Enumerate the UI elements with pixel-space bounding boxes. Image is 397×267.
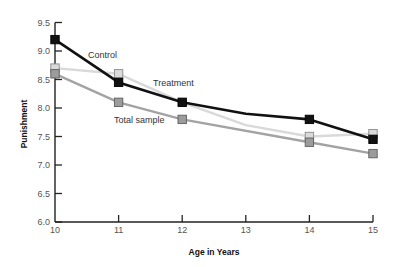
x-tick-label: 12 xyxy=(177,225,187,235)
y-tick-label: 9.0 xyxy=(37,46,50,56)
series-label: Control xyxy=(88,50,117,60)
data-point-marker xyxy=(114,78,122,86)
series-label: Treatment xyxy=(153,78,194,88)
data-point-marker xyxy=(51,70,59,78)
data-point-marker xyxy=(178,115,186,123)
x-tick-label: 10 xyxy=(50,225,60,235)
data-point-marker xyxy=(369,149,377,157)
y-tick-label: 7.0 xyxy=(37,160,50,170)
y-tick-label: 6.0 xyxy=(37,217,50,227)
data-point-marker xyxy=(114,98,122,106)
y-axis-title: Punishment xyxy=(19,100,29,149)
x-tick-label: 11 xyxy=(114,225,123,235)
y-tick-label: 9.5 xyxy=(37,18,50,28)
data-point-marker xyxy=(305,138,313,146)
y-tick-label: 8.0 xyxy=(37,103,50,113)
data-point-marker xyxy=(51,35,59,43)
line-chart: 6.06.57.07.58.08.59.09.5 101112131415 Co… xyxy=(0,0,397,267)
series-labels: ControlTreatmentTotal sample xyxy=(88,50,194,125)
y-axis: 6.06.57.07.58.08.59.09.5 xyxy=(37,18,62,228)
y-tick-label: 6.5 xyxy=(37,189,50,199)
data-point-marker xyxy=(305,115,313,123)
x-tick-label: 13 xyxy=(241,225,251,235)
x-axis-title: Age in Years xyxy=(189,247,240,257)
series-label: Total sample xyxy=(114,115,165,125)
y-tick-label: 8.5 xyxy=(37,75,50,85)
y-tick-label: 7.5 xyxy=(37,132,50,142)
x-axis: 101112131415 xyxy=(50,215,378,235)
data-point-marker xyxy=(369,135,377,143)
data-point-marker xyxy=(114,70,122,78)
x-tick-label: 14 xyxy=(304,225,314,235)
x-tick-label: 15 xyxy=(368,225,378,235)
data-point-marker xyxy=(178,98,186,106)
